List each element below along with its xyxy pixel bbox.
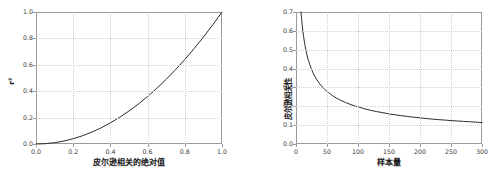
y-axis-tick-label: 1.0 bbox=[14, 9, 33, 15]
x-axis-tick bbox=[358, 144, 359, 147]
x-axis-tick-label: 50 bbox=[323, 149, 331, 155]
y-axis-tick-label: 0.4 bbox=[14, 88, 33, 94]
gridline-horizontal bbox=[296, 106, 482, 107]
y-axis-label-left: r² bbox=[8, 78, 16, 85]
y-axis-tick bbox=[33, 38, 36, 39]
x-axis-tick-label: 300 bbox=[476, 149, 488, 155]
y-axis-tick bbox=[293, 87, 296, 88]
x-axis-tick bbox=[73, 144, 74, 147]
y-axis-tick-label: 0.6 bbox=[274, 28, 293, 34]
x-axis-tick bbox=[482, 144, 483, 147]
gridline-horizontal bbox=[36, 91, 222, 92]
chart-panel-right: 0501001502002503000.00.10.20.30.40.50.60… bbox=[249, 0, 498, 176]
x-axis-label-right: 样本量 bbox=[377, 159, 401, 167]
x-axis-tick-label: 200 bbox=[414, 149, 426, 155]
x-axis-tick-label: 0 bbox=[294, 149, 298, 155]
gridline-horizontal bbox=[36, 118, 222, 119]
x-axis-tick-label: 250 bbox=[445, 149, 457, 155]
x-axis-tick-label: 1.0 bbox=[217, 149, 227, 155]
x-axis-tick-label: 0.4 bbox=[105, 149, 115, 155]
y-axis-tick bbox=[33, 12, 36, 13]
x-axis-tick bbox=[420, 144, 421, 147]
x-axis-tick-label: 100 bbox=[352, 149, 364, 155]
gridline-horizontal bbox=[296, 125, 482, 126]
gridline-vertical bbox=[185, 12, 186, 144]
series-line bbox=[36, 12, 222, 144]
y-axis-tick bbox=[33, 91, 36, 92]
y-axis-tick bbox=[293, 50, 296, 51]
x-axis-tick bbox=[296, 144, 297, 147]
gridline-horizontal bbox=[296, 87, 482, 88]
y-axis-tick bbox=[293, 12, 296, 13]
x-axis-tick-label: 150 bbox=[383, 149, 395, 155]
y-axis-tick bbox=[293, 125, 296, 126]
x-axis-tick-label: 0.6 bbox=[143, 149, 153, 155]
y-axis-tick bbox=[33, 65, 36, 66]
gridline-vertical bbox=[148, 12, 149, 144]
gridline-vertical bbox=[110, 12, 111, 144]
x-axis-tick bbox=[222, 144, 223, 147]
plot-area-left bbox=[36, 12, 222, 144]
gridline-horizontal bbox=[36, 65, 222, 66]
y-axis-tick-label: 0.0 bbox=[274, 141, 293, 147]
chart-panel-left: 0.00.20.40.60.81.00.00.20.40.60.81.0 皮尔逊… bbox=[0, 0, 249, 176]
y-axis-tick-label: 0.2 bbox=[14, 114, 33, 120]
x-axis-tick bbox=[451, 144, 452, 147]
x-axis-tick-label: 0.2 bbox=[68, 149, 78, 155]
y-axis-tick bbox=[33, 118, 36, 119]
gridline-vertical bbox=[73, 12, 74, 144]
x-axis-tick-label: 0.8 bbox=[180, 149, 190, 155]
y-axis-tick bbox=[33, 144, 36, 145]
gridline-horizontal bbox=[296, 69, 482, 70]
y-axis-tick-label: 0.5 bbox=[274, 47, 293, 53]
y-axis-tick-label: 0.4 bbox=[274, 65, 293, 71]
x-axis-tick bbox=[36, 144, 37, 147]
y-axis-label-right: 皮尔逊相关性 bbox=[285, 78, 293, 120]
gridline-horizontal bbox=[36, 38, 222, 39]
plot-area-right bbox=[296, 12, 482, 144]
y-axis-tick bbox=[293, 144, 296, 145]
x-axis-tick bbox=[110, 144, 111, 147]
gridline-horizontal bbox=[296, 31, 482, 32]
x-axis-tick bbox=[185, 144, 186, 147]
data-curve-left bbox=[36, 12, 222, 144]
y-axis-tick bbox=[293, 31, 296, 32]
y-axis-tick bbox=[293, 69, 296, 70]
x-axis-tick bbox=[389, 144, 390, 147]
y-axis-tick-label: 0.6 bbox=[14, 62, 33, 68]
y-axis-tick-label: 0.0 bbox=[14, 141, 33, 147]
x-axis-tick bbox=[327, 144, 328, 147]
y-axis-tick-label: 0.1 bbox=[274, 122, 293, 128]
y-axis-tick bbox=[293, 106, 296, 107]
x-axis-tick-label: 0.0 bbox=[31, 149, 41, 155]
figure-canvas: 0.00.20.40.60.81.00.00.20.40.60.81.0 皮尔逊… bbox=[0, 0, 498, 176]
x-axis-tick bbox=[148, 144, 149, 147]
y-axis-tick-label: 0.7 bbox=[274, 9, 293, 15]
gridline-horizontal bbox=[296, 50, 482, 51]
x-axis-label-left: 皮尔逊相关的绝对值 bbox=[93, 159, 165, 167]
y-axis-tick-label: 0.8 bbox=[14, 35, 33, 41]
